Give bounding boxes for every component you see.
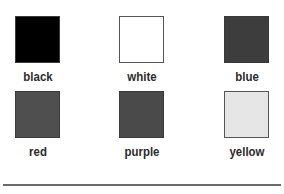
swatch-purple	[119, 91, 164, 138]
swatch-red	[15, 91, 60, 138]
swatch-label-blue: blue	[212, 69, 282, 84]
swatch-blue	[224, 16, 269, 63]
swatch-yellow	[224, 91, 269, 138]
swatch-label-red: red	[3, 144, 73, 159]
swatch-black	[15, 16, 60, 63]
horizontal-divider	[3, 184, 281, 186]
swatch-white	[119, 16, 164, 63]
swatch-label-purple: purple	[107, 144, 177, 159]
swatch-label-white: white	[107, 69, 177, 84]
swatch-label-yellow: yellow	[212, 144, 282, 159]
swatch-label-black: black	[3, 69, 73, 84]
